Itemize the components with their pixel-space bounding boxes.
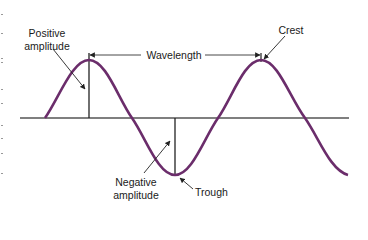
positive-amplitude-pointer (53, 49, 85, 89)
trough-pointer (180, 178, 193, 189)
trough-label: Trough (195, 186, 231, 199)
positive-amplitude-label: Positive amplitude (22, 27, 72, 52)
wavelength-label: Wavelength (146, 49, 202, 62)
negative-amplitude-label: Negative amplitude (110, 176, 162, 201)
crest-pointer (264, 36, 285, 59)
crest-label: Crest (274, 24, 308, 37)
